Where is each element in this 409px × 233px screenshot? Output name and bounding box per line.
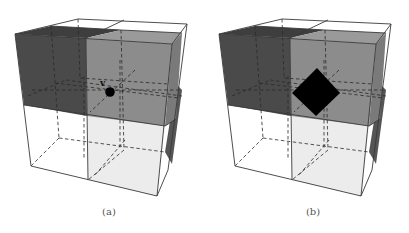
vertex-label: v xyxy=(99,78,106,88)
block-front-bottom-left xyxy=(24,105,88,180)
dark-block-front xyxy=(219,34,291,116)
gray-block-front xyxy=(86,38,172,126)
caption-a: (a) xyxy=(89,206,129,217)
cube-diagram-b xyxy=(204,0,409,200)
block-front-bottom-right xyxy=(291,116,369,196)
dark-block-front xyxy=(15,34,87,116)
vertex-dot xyxy=(105,87,115,97)
cube-diagram-a: v xyxy=(0,0,205,200)
gray-block-front xyxy=(290,38,376,126)
caption-b: (b) xyxy=(293,206,333,217)
block-front-bottom-left xyxy=(228,105,292,180)
panel-b: (b) xyxy=(204,0,409,233)
panel-a: v (a) xyxy=(0,0,205,233)
block-front-bottom-right xyxy=(87,116,165,196)
